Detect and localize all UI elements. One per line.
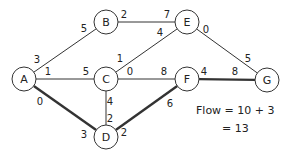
node-F: F bbox=[175, 67, 199, 91]
node-label: B bbox=[102, 16, 110, 29]
node-B: B bbox=[94, 10, 118, 34]
edge-C-E bbox=[116, 29, 177, 72]
edge-label-C-F-start: 0 bbox=[127, 66, 133, 77]
edge-label-A-D-start: 0 bbox=[37, 96, 43, 107]
edge-label-A-C-start: 1 bbox=[45, 66, 51, 77]
flow-network-diagram: 35150327140842260548 ABCDEFG Flow = 10 +… bbox=[0, 0, 292, 156]
edge-label-A-B-end: 5 bbox=[81, 23, 87, 34]
edge-A-D bbox=[34, 86, 96, 130]
node-label: G bbox=[263, 74, 272, 87]
node-C: C bbox=[94, 67, 118, 91]
node-G: G bbox=[255, 68, 279, 92]
edge-label-F-G-end: 8 bbox=[232, 66, 238, 77]
node-label: C bbox=[102, 73, 110, 86]
edge-label-B-E-end: 7 bbox=[164, 9, 170, 20]
node-D: D bbox=[94, 125, 118, 149]
edge-label-B-E-start: 2 bbox=[121, 9, 127, 20]
edge-label-A-D-end: 3 bbox=[81, 129, 87, 140]
node-label: F bbox=[184, 73, 190, 86]
edge-label-C-D-end: 2 bbox=[107, 113, 113, 124]
node-label: A bbox=[20, 73, 28, 86]
edge-label-E-G-start: 0 bbox=[203, 24, 209, 35]
edge-label-C-E-end: 4 bbox=[157, 27, 163, 38]
edge-label-E-G-end: 5 bbox=[245, 53, 251, 64]
node-E: E bbox=[175, 10, 199, 34]
edge-label-A-C-end: 5 bbox=[83, 66, 89, 77]
node-label: D bbox=[102, 131, 110, 144]
edge-labels-layer: 35150327140842260548 bbox=[34, 9, 251, 140]
edge-label-C-D-start: 4 bbox=[107, 96, 113, 107]
edge-label-A-B-start: 3 bbox=[34, 54, 40, 65]
edge-label-D-F-end: 6 bbox=[167, 98, 173, 109]
node-A: A bbox=[12, 67, 36, 91]
flow-annotation: Flow = 10 + 3 = 13 bbox=[196, 104, 275, 135]
node-label: E bbox=[184, 16, 191, 29]
flow-line-2: = 13 bbox=[222, 122, 249, 135]
edge-label-C-E-start: 1 bbox=[117, 53, 123, 64]
graph-canvas: 35150327140842260548 ABCDEFG Flow = 10 +… bbox=[0, 0, 292, 156]
edge-label-C-F-end: 8 bbox=[161, 66, 167, 77]
edge-label-D-F-start: 2 bbox=[121, 127, 127, 138]
edge-F-G bbox=[199, 79, 255, 80]
flow-line-1: Flow = 10 + 3 bbox=[196, 104, 275, 117]
edge-label-F-G-start: 4 bbox=[201, 66, 207, 77]
